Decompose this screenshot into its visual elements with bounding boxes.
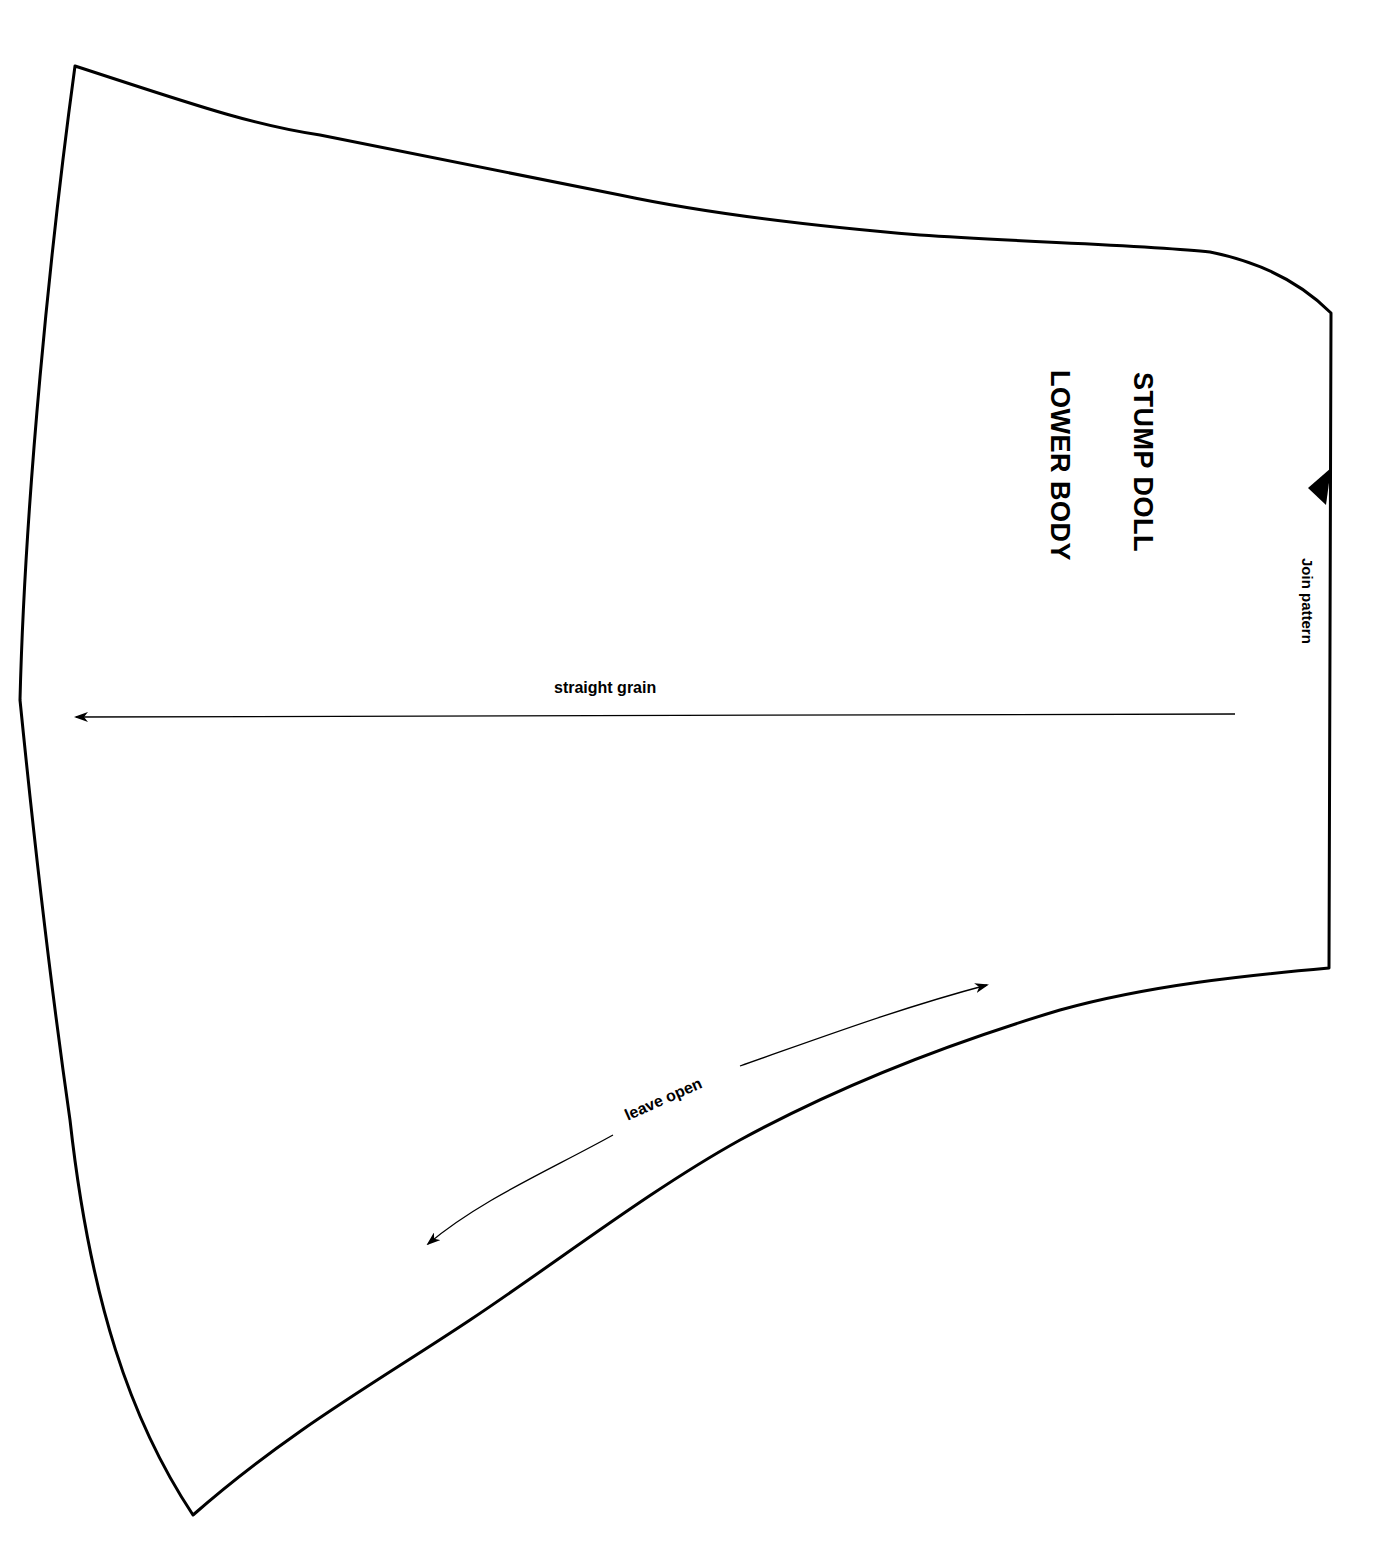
- pattern-title-line-1: STUMP DOLL: [1127, 372, 1158, 552]
- pattern-outline-graphic: [0, 0, 1385, 1564]
- notch-marker-icon: [1308, 468, 1331, 505]
- pattern-title-line-2: LOWER BODY: [1044, 370, 1075, 561]
- straight-grain-arrow: [76, 714, 1235, 717]
- sewing-pattern-sheet: STUMP DOLL LOWER BODY Join pattern strai…: [0, 0, 1385, 1564]
- leave-open-arrow-upper: [740, 985, 987, 1066]
- straight-grain-label: straight grain: [554, 679, 656, 697]
- join-pattern-label: Join pattern: [1299, 558, 1316, 644]
- leave-open-arrow-lower: [428, 1135, 613, 1244]
- pattern-piece-outline: [20, 66, 1331, 1515]
